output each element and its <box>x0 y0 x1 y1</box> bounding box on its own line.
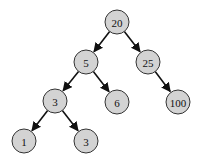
node-label: 6 <box>114 97 120 109</box>
tree-node-25: 25 <box>136 50 160 74</box>
edge-n3a-n3b <box>62 110 78 130</box>
node-label: 3 <box>52 96 58 108</box>
tree-node-100: 100 <box>166 90 190 114</box>
tree-node-1: 1 <box>12 129 36 153</box>
edge-n20-n25 <box>124 31 140 51</box>
node-label: 5 <box>83 57 89 69</box>
edge-n25-n100 <box>155 72 170 92</box>
edge-n20-n5 <box>94 31 110 51</box>
edges-group <box>32 31 170 130</box>
edge-n5-n3a <box>63 71 78 90</box>
tree-node-3: 3 <box>43 89 67 113</box>
tree-node-6: 6 <box>105 90 129 114</box>
node-label: 100 <box>170 97 187 109</box>
edge-n3a-n1 <box>32 110 48 130</box>
node-label: 3 <box>83 136 89 148</box>
tree-node-3: 3 <box>74 129 98 153</box>
tree-node-5: 5 <box>74 50 98 74</box>
tree-node-20: 20 <box>105 10 129 34</box>
binary-tree-diagram: 205253610013 <box>0 0 202 165</box>
node-label: 1 <box>21 136 27 148</box>
edge-n5-n6 <box>93 71 109 91</box>
tree-svg: 205253610013 <box>0 0 202 165</box>
node-label: 20 <box>112 17 124 29</box>
node-label: 25 <box>143 57 155 69</box>
